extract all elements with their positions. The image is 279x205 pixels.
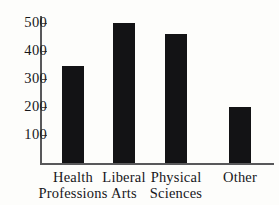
- x-axis-line: [40, 163, 274, 165]
- x-axis-category-line: Sciences: [128, 186, 224, 202]
- y-axis-tick-label: 400: [13, 43, 47, 58]
- y-axis-tick-label: 100: [13, 127, 47, 142]
- bar-other: [229, 107, 251, 163]
- x-axis-category-line: Other: [192, 170, 279, 186]
- y-axis-tick-label: 200: [13, 99, 47, 114]
- bar-health-professions: [62, 66, 84, 163]
- y-axis-tick-label: 300: [13, 71, 47, 86]
- bar-physical-sciences: [165, 34, 187, 163]
- bar-chart: 100 200 300 400 500 HealthProfessions Li…: [0, 0, 279, 205]
- x-axis-category-label: Other: [192, 170, 279, 186]
- y-axis-tick-label: 500: [13, 15, 47, 30]
- bar-liberal-arts: [113, 23, 135, 163]
- plot-area: 100 200 300 400 500 HealthProfessions Li…: [0, 0, 279, 205]
